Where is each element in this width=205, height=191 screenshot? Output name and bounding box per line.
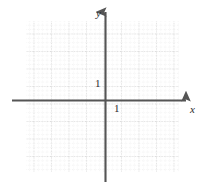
coordinate-plane-svg (0, 0, 205, 191)
x-axis-label: x (190, 104, 195, 115)
y-axis-unit-label: 1 (95, 78, 101, 89)
coordinate-plane-figure: y x 1 1 (0, 0, 205, 191)
x-axis-unit-label: 1 (114, 103, 120, 114)
grid-area (26, 21, 179, 172)
y-axis-label: y (96, 8, 101, 19)
grid-major-lines (26, 21, 179, 172)
